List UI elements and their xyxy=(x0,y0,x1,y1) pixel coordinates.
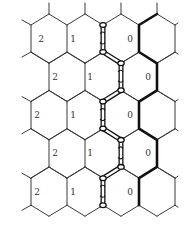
chain-link-icon xyxy=(100,99,106,104)
hex-edge xyxy=(49,129,67,140)
hex-edge xyxy=(67,167,85,178)
cell-label: 0 xyxy=(145,72,151,82)
hex-edge xyxy=(121,205,139,216)
chain-link-icon xyxy=(100,203,106,208)
edge-stub xyxy=(22,20,31,25)
edge-stub xyxy=(22,97,31,102)
hex-edge xyxy=(139,205,157,216)
cell-label: 1 xyxy=(70,110,76,120)
hex-edge xyxy=(31,167,49,178)
cell-label: 2 xyxy=(34,110,40,120)
cell-label: 2 xyxy=(52,148,58,158)
cell-label: 1 xyxy=(70,187,76,197)
hex-edge xyxy=(157,129,175,140)
hex-edge xyxy=(157,52,175,63)
chain-link-icon xyxy=(100,176,106,181)
cell-label: 2 xyxy=(38,34,44,44)
thick-boundary-path xyxy=(139,14,157,205)
hex-edge xyxy=(157,167,175,178)
thick-boundary xyxy=(139,14,157,205)
chain-link-icon xyxy=(100,23,106,28)
hex-edge xyxy=(31,52,49,63)
cell-label: 1 xyxy=(87,72,93,82)
chain-link-icon xyxy=(118,61,124,66)
hex-edge xyxy=(31,205,49,216)
hex-edge xyxy=(31,91,49,102)
hex-edge xyxy=(157,205,175,216)
edge-stub xyxy=(22,205,31,210)
edge-stub xyxy=(22,173,31,178)
hex-edge xyxy=(157,14,175,25)
cell-label: 0 xyxy=(145,148,151,158)
cell-label: 1 xyxy=(70,34,76,44)
hex-edge xyxy=(49,91,67,102)
chain-link-icon xyxy=(118,88,124,93)
chain-link-icon xyxy=(118,138,124,143)
hex-edge xyxy=(67,91,85,102)
edge-stub xyxy=(175,205,178,207)
hex-edge xyxy=(67,129,85,140)
edge-stub xyxy=(22,129,31,134)
hex-edge xyxy=(157,91,175,102)
cell-label: 1 xyxy=(87,148,93,158)
cell-label: 2 xyxy=(52,72,58,82)
hex-edge xyxy=(31,14,49,25)
hex-edge xyxy=(49,167,67,178)
hex-edge xyxy=(49,52,67,63)
hex-edge xyxy=(31,129,49,140)
edge-stub xyxy=(175,100,178,102)
cell-label: 2 xyxy=(34,187,40,197)
hex-lattice-diagram: 210210210210210 xyxy=(0,0,188,236)
chain-path xyxy=(100,23,124,208)
cell-label: 0 xyxy=(127,34,133,44)
hex-edge xyxy=(49,205,67,216)
hex-edge xyxy=(49,14,67,25)
cell-label: 0 xyxy=(127,187,133,197)
cell-label: 0 xyxy=(127,110,133,120)
hex-edge xyxy=(67,14,85,25)
hex-edge xyxy=(121,14,139,25)
chain-link-icon xyxy=(100,126,106,131)
chain-link-icon xyxy=(100,50,106,55)
hex-edge xyxy=(67,205,85,216)
edge-stub xyxy=(22,52,31,57)
edge-stub xyxy=(175,23,178,25)
edge-stub xyxy=(175,176,178,178)
chain-link-icon xyxy=(118,165,124,170)
hex-edge xyxy=(67,52,85,63)
